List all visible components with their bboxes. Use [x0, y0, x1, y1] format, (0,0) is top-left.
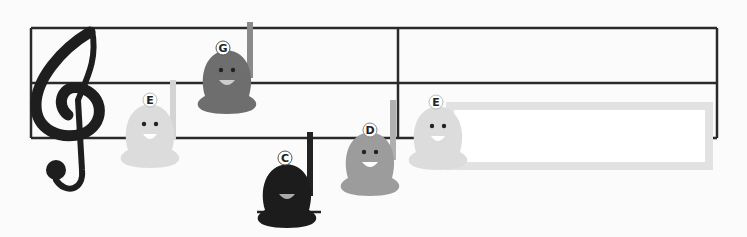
staff-canvas: E G C D E — [0, 0, 747, 237]
bell-d[interactable]: D — [341, 100, 400, 196]
bell-c[interactable]: C — [257, 132, 321, 228]
note-label: E — [146, 94, 154, 107]
music-staff-diagram: E G C D E — [0, 0, 747, 237]
answer-box[interactable] — [450, 106, 709, 166]
note-label: C — [281, 152, 289, 165]
note-label: E — [432, 96, 440, 109]
bell-e-1[interactable]: E — [121, 80, 180, 168]
bell-g[interactable]: G — [198, 22, 257, 114]
note-label: G — [218, 42, 227, 55]
note-label: D — [365, 124, 374, 137]
treble-clef-icon — [36, 30, 99, 189]
